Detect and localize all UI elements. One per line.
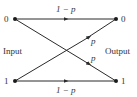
output-label: Output [105,46,131,56]
edge-label-top: 1 − p [56,4,76,14]
node-label-input-1: 1 [4,76,9,86]
channel-diagram: 0 1 0 1 Input Output 1 − p 1 − p p p [0,0,137,97]
node-label-output-1: 1 [121,76,126,86]
node-label-output-0: 0 [121,14,126,24]
edge-label-cross-up: p [90,36,96,46]
node-output-1 [114,79,118,83]
input-label: Input [3,46,22,56]
node-label-input-0: 0 [4,14,9,24]
node-output-0 [114,17,118,21]
node-input-0 [13,17,17,21]
edge-label-cross-down: p [90,53,96,63]
edge-label-bottom: 1 − p [56,85,76,95]
node-input-1 [13,79,17,83]
